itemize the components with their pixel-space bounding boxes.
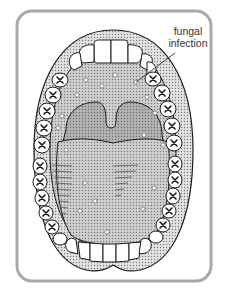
annotation-line2: infection	[163, 37, 213, 49]
annotation-line1: fungal	[163, 25, 213, 37]
annotation-label: fungal infection	[163, 25, 213, 49]
tongue	[57, 139, 170, 245]
